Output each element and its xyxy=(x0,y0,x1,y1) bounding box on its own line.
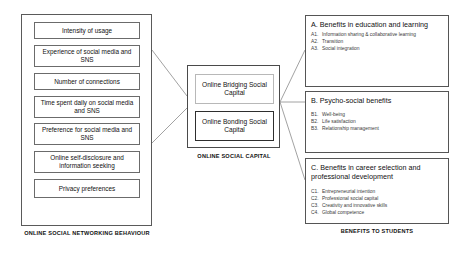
subitem-key: C4. xyxy=(311,210,322,216)
panel-b-heading: B. Psycho-social benefits xyxy=(311,96,443,105)
right-block-caption: BENEFITS TO STUDENTS xyxy=(305,228,449,234)
capital-item-label: Online Bridging Social Capital xyxy=(196,81,273,97)
panel-c-subitem: C2. Professional social capital xyxy=(311,196,443,202)
capital-item-online-bonding: Online Bonding Social Capital xyxy=(195,111,274,141)
panel-c-subitems: C1. Entrepreneurial intention C2. Profes… xyxy=(311,189,443,216)
behaviour-item-label: Experience of social media and SNS xyxy=(37,48,137,63)
panel-b-subitem: B3. Relationship management xyxy=(311,126,443,132)
subitem-text: Transition xyxy=(322,39,443,45)
behaviour-item-intensity-of-usage: Intensity of usage xyxy=(34,22,140,39)
behaviour-item-preference-for-social-media: Preference for social media and SNS xyxy=(34,123,140,145)
subitem-key: A1. xyxy=(311,32,322,38)
conceptual-model-diagram: Intensity of usage Experience of social … xyxy=(0,0,471,259)
online-social-networking-behaviour-group: Intensity of usage Experience of social … xyxy=(21,14,152,226)
subitem-text: Creativity and innovative skills xyxy=(322,203,443,209)
center-block-caption: ONLINE SOCIAL CAPITAL xyxy=(182,153,286,160)
subitem-text: Social integration xyxy=(322,46,443,52)
panel-a-subitem: A3. Social integration xyxy=(311,46,443,52)
panel-c-title: Benefits in career selection and profess… xyxy=(311,163,420,181)
panel-b-subitem: B1. Well-being xyxy=(311,112,443,118)
panel-c-subitem: C1. Entrepreneurial intention xyxy=(311,189,443,195)
behaviour-item-label: Time spent daily on social media and SNS xyxy=(37,99,137,114)
behaviour-item-online-self-disclosure: Online self-disclosure and information s… xyxy=(34,151,140,173)
behaviour-item-label: Preference for social media and SNS xyxy=(37,126,137,141)
panel-b-key: B. xyxy=(311,96,318,105)
behaviour-item-label: Online self-disclosure and information s… xyxy=(37,154,137,169)
panel-b-subitem: B2. Life satisfaction xyxy=(311,119,443,125)
connector-center-to-c xyxy=(280,102,305,180)
subitem-text: Global competence xyxy=(322,210,443,216)
behaviour-item-experience-of-social-media: Experience of social media and SNS xyxy=(34,45,140,67)
panel-c-heading: C. Benefits in career selection and prof… xyxy=(311,163,443,181)
panel-a-title: Benefits in education and learning xyxy=(320,20,428,29)
benefit-panel-psycho-social: B. Psycho-social benefits B1. Well-being… xyxy=(305,91,449,153)
left-block-caption: ONLINE SOCIAL NETWORKING BEHAVIOUR xyxy=(16,230,158,237)
subitem-key: C2. xyxy=(311,196,322,202)
panel-c-key: C. xyxy=(311,163,318,172)
behaviour-item-privacy-preferences: Privacy preferences xyxy=(34,179,140,198)
subitem-key: A2. xyxy=(311,39,322,45)
connector-left-upper xyxy=(152,50,187,96)
behaviour-item-number-of-connections: Number of connections xyxy=(34,73,140,90)
subitem-text: Information sharing & collaborative lear… xyxy=(322,32,443,38)
panel-a-heading: A. Benefits in education and learning xyxy=(311,20,443,29)
behaviour-item-label: Intensity of usage xyxy=(62,27,112,35)
behaviour-item-label: Privacy preferences xyxy=(59,185,115,193)
benefit-panel-education-and-learning: A. Benefits in education and learning A1… xyxy=(305,15,449,87)
panel-a-key: A. xyxy=(311,20,318,29)
capital-item-label: Online Bonding Social Capital xyxy=(196,118,273,134)
benefit-panel-career-and-professional: C. Benefits in career selection and prof… xyxy=(305,158,449,224)
subitem-text: Entrepreneurial intention xyxy=(322,189,443,195)
panel-c-subitem: C4. Global competence xyxy=(311,210,443,216)
subitem-key: A3. xyxy=(311,46,322,52)
panel-b-title: Psycho-social benefits xyxy=(320,96,392,105)
panel-a-subitem: A2. Transition xyxy=(311,39,443,45)
online-social-capital-group: Online Bridging Social Capital Online Bo… xyxy=(187,65,280,148)
subitem-text: Relationship management xyxy=(322,126,443,132)
behaviour-item-label: Number of connections xyxy=(54,78,120,86)
connector-center-to-a xyxy=(280,50,305,102)
behaviour-item-time-spent-daily: Time spent daily on social media and SNS xyxy=(34,96,140,118)
subitem-key: B2. xyxy=(311,119,322,125)
subitem-key: C1. xyxy=(311,189,322,195)
subitem-text: Well-being xyxy=(322,112,443,118)
panel-a-subitems: A1. Information sharing & collaborative … xyxy=(311,32,443,52)
subitem-text: Life satisfaction xyxy=(322,119,443,125)
panel-b-subitems: B1. Well-being B2. Life satisfaction B3.… xyxy=(311,112,443,132)
subitem-key: B3. xyxy=(311,126,322,132)
panel-c-subitem: C3. Creativity and innovative skills xyxy=(311,203,443,209)
subitem-key: B1. xyxy=(311,112,322,118)
subitem-key: C3. xyxy=(311,203,322,209)
connector-left-lower xyxy=(152,108,187,143)
capital-item-online-bridging: Online Bridging Social Capital xyxy=(195,74,274,104)
panel-a-subitem: A1. Information sharing & collaborative … xyxy=(311,32,443,38)
subitem-text: Professional social capital xyxy=(322,196,443,202)
